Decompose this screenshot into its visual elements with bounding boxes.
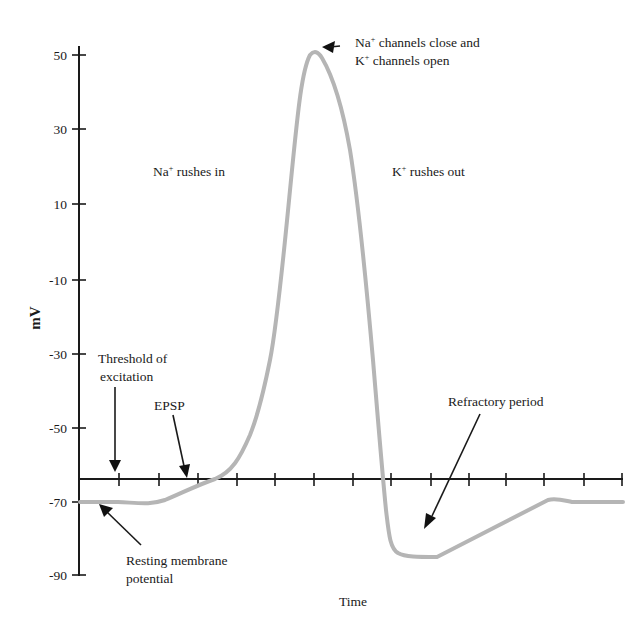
action-potential-diagram: 50 30 10 -10 -30 -50 -70 -90 mV Na+ chan… [0,0,641,625]
y-tick-label: -70 [49,495,67,510]
y-tick-label: -50 [49,421,67,436]
y-tick-label: 10 [54,197,68,212]
epsp-annotation: EPSP [154,398,190,478]
x-axis-label: Time [339,594,367,609]
y-tick-label: -30 [49,347,67,362]
peak-label-line1: Na+ channels close and [355,35,480,50]
peak-label-line2: K+ channels open [355,53,450,68]
resting-label-line1: Resting membrane [126,553,228,568]
epsp-arrow-line [173,415,184,466]
resting-potential-annotation: Resting membrane potential [99,504,228,586]
resting-arrow-line [106,511,141,545]
y-tick-label: 30 [54,122,68,137]
action-potential-curve [80,52,623,557]
refractory-annotation: Refractory period [424,394,544,529]
threshold-line [79,473,623,486]
na-rushes-in-label: Na+ rushes in [153,164,225,179]
refractory-arrow-line [432,414,480,516]
peak-annotation: Na+ channels close and K+ channels open [322,35,480,68]
y-axis: 50 30 10 -10 -30 -50 -70 -90 mV [27,46,86,583]
y-tick-label: -10 [49,273,67,288]
resting-label-line2: potential [126,571,173,586]
refractory-label: Refractory period [448,394,544,409]
y-axis-label: mV [27,306,43,329]
threshold-label-line2: excitation [100,369,153,384]
threshold-label-line1: Threshold of [98,351,168,366]
epsp-label: EPSP [154,398,185,413]
k-rushes-out-label: K+ rushes out [392,164,465,179]
peak-arrow-line [330,46,340,47]
arrow-down-left-icon [424,513,436,529]
arrow-down-icon [179,464,190,478]
y-tick-label: -90 [49,568,67,583]
y-tick-label: 50 [54,48,68,63]
arrow-down-icon [109,460,121,472]
